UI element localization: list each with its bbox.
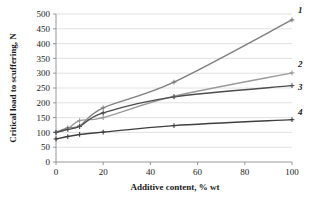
series-line-1 [56, 20, 292, 132]
data-point-marker [101, 105, 106, 110]
x-axis-tick-label: 100 [285, 167, 299, 177]
y-axis-tick-label: 400 [37, 39, 51, 49]
data-series [56, 20, 292, 139]
y-axis-tick-label: 250 [37, 83, 51, 93]
data-point-marker [54, 137, 59, 142]
x-axis-tick-label: 40 [146, 167, 156, 177]
y-axis-tick-label: 450 [37, 24, 51, 34]
x-axis-tick-labels: 020406080100 [54, 167, 300, 177]
y-axis-tick-label: 150 [37, 113, 51, 123]
data-point-marker [101, 130, 106, 135]
series-label-3: 3 [297, 82, 303, 92]
y-axis-tick-label: 300 [37, 68, 51, 78]
axes [53, 14, 292, 165]
data-point-marker [172, 123, 177, 128]
series-end-labels: 1234 [297, 5, 303, 117]
data-point-marker [101, 115, 106, 120]
y-axis-tick-label: 100 [37, 128, 51, 138]
y-axis-title: Critical load to scuffering, N [8, 33, 18, 143]
data-point-marker [77, 118, 82, 123]
y-axis-tick-label: 0 [46, 157, 51, 167]
x-axis-tick-label: 0 [54, 167, 59, 177]
series-line-4 [56, 120, 292, 139]
data-point-marker [290, 83, 295, 88]
data-point-marker [290, 71, 295, 76]
x-axis-tick-label: 80 [240, 167, 250, 177]
chart-container: 050100150200250300350400450500 020406080… [0, 0, 311, 200]
line-chart: 050100150200250300350400450500 020406080… [0, 0, 311, 200]
y-axis-tick-label: 350 [37, 54, 51, 64]
data-point-marker [65, 134, 70, 139]
x-axis-tick-label: 60 [193, 167, 203, 177]
y-axis-tick-labels: 050100150200250300350400450500 [37, 9, 51, 167]
data-point-marker [172, 80, 177, 85]
data-point-marker [54, 130, 59, 135]
y-axis-tick-label: 50 [41, 142, 51, 152]
series-label-1: 1 [298, 5, 303, 15]
x-axis-tick-label: 20 [99, 167, 109, 177]
series-label-2: 2 [297, 59, 303, 69]
series-label-4: 4 [297, 107, 303, 117]
y-axis-tick-label: 200 [37, 98, 51, 108]
y-axis-tick-label: 500 [37, 9, 51, 19]
data-point-marker [101, 110, 106, 115]
x-axis-title: Additive content, % wt [131, 182, 220, 192]
